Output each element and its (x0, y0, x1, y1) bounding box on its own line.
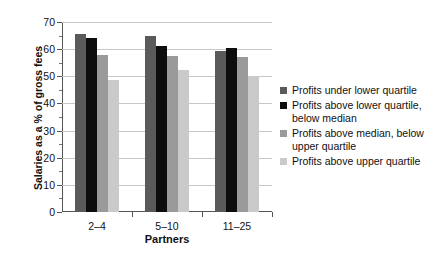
y-axis-tick-label: 40 (43, 97, 55, 109)
y-axis-line (62, 22, 63, 212)
legend-item: Profits above lower quartile, below medi… (280, 99, 440, 125)
x-axis-tick (202, 212, 203, 217)
bar (248, 76, 259, 212)
y-axis-minor-tick (59, 36, 62, 37)
bar (178, 70, 189, 213)
y-axis-title: Salaries as a % of gross fees (32, 28, 44, 208)
bar (97, 55, 108, 212)
legend-swatch (280, 87, 287, 94)
x-axis-tick-label: 11–25 (223, 220, 251, 232)
y-axis-tick-label: 0 (49, 206, 55, 218)
gridline (62, 22, 272, 23)
y-axis-tick (57, 49, 62, 50)
y-axis-minor-tick (59, 171, 62, 172)
y-axis-minor-tick (59, 63, 62, 64)
legend-item: Profits above median, below upper quarti… (280, 127, 440, 153)
y-axis-minor-tick (59, 90, 62, 91)
plot-area: 0102030405060702–45–1011–25 (62, 22, 272, 212)
legend-label: Profits above lower quartile, below medi… (292, 99, 440, 125)
legend-item: Profits above upper quartile (280, 155, 440, 168)
legend-swatch (280, 130, 287, 137)
legend-swatch (280, 102, 287, 109)
y-axis-tick-label: 30 (43, 125, 55, 137)
legend-label: Profits above upper quartile (292, 155, 420, 168)
bar (215, 51, 226, 213)
x-axis-tick-label: 5–10 (155, 220, 178, 232)
y-axis-tick-label: 60 (43, 43, 55, 55)
chart-legend: Profits under lower quartileProfits abov… (280, 84, 440, 170)
bar (86, 38, 97, 212)
x-axis-tick (132, 212, 133, 217)
x-axis-tick (272, 212, 273, 217)
bar (237, 57, 248, 212)
y-axis-tick (57, 212, 62, 213)
y-axis-tick (57, 158, 62, 159)
legend-swatch (280, 158, 287, 165)
bar (145, 36, 156, 212)
x-axis-tick-label: 2–4 (88, 220, 106, 232)
y-axis-tick-label: 50 (43, 70, 55, 82)
y-axis-tick (57, 131, 62, 132)
y-axis-tick-label: 20 (43, 152, 55, 164)
y-axis-tick-label: 70 (43, 16, 55, 28)
x-axis-title: Partners (62, 233, 272, 245)
y-axis-minor-tick (59, 117, 62, 118)
legend-label: Profits under lower quartile (292, 84, 417, 97)
bar (156, 46, 167, 212)
y-axis-tick (57, 185, 62, 186)
bar (108, 80, 119, 212)
bar (167, 56, 178, 212)
y-axis-tick (57, 22, 62, 23)
y-axis-tick-label: 10 (43, 179, 55, 191)
y-axis-tick (57, 103, 62, 104)
legend-item: Profits under lower quartile (280, 84, 440, 97)
y-axis-tick (57, 76, 62, 77)
legend-label: Profits above median, below upper quarti… (292, 127, 440, 153)
bar (75, 34, 86, 212)
y-axis-minor-tick (59, 198, 62, 199)
y-axis-minor-tick (59, 144, 62, 145)
bar-chart: Salaries as a % of gross fees 0102030405… (0, 0, 440, 253)
bar (226, 48, 237, 212)
